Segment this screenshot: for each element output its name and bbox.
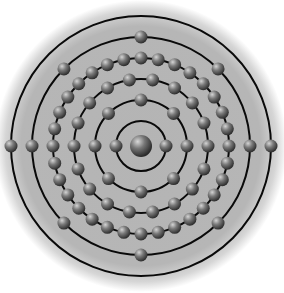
electron xyxy=(101,198,114,211)
atom-svg xyxy=(0,0,284,293)
electron xyxy=(47,140,60,153)
electron xyxy=(221,157,234,170)
electron xyxy=(212,62,225,75)
electron xyxy=(197,162,210,175)
electron xyxy=(117,53,130,66)
electron xyxy=(135,31,148,44)
electron xyxy=(110,140,123,153)
electron xyxy=(186,96,199,109)
electron xyxy=(146,205,159,218)
electron xyxy=(146,74,159,87)
electron xyxy=(197,77,210,90)
electron xyxy=(183,66,196,79)
electron xyxy=(117,226,130,239)
electron xyxy=(101,221,114,234)
electron xyxy=(102,107,115,120)
electron xyxy=(89,140,102,153)
nucleus xyxy=(130,135,152,157)
electron xyxy=(135,228,148,241)
electron xyxy=(197,117,210,130)
electron xyxy=(68,140,81,153)
electron xyxy=(221,122,234,135)
electron xyxy=(57,217,70,230)
electron xyxy=(265,140,278,153)
electron xyxy=(152,226,165,239)
electron xyxy=(168,58,181,71)
electron xyxy=(168,198,181,211)
electron xyxy=(53,173,66,186)
electron xyxy=(216,106,229,119)
electron xyxy=(72,117,85,130)
electron xyxy=(160,140,173,153)
electron xyxy=(72,162,85,175)
electron xyxy=(57,62,70,75)
electron xyxy=(135,94,148,107)
electron xyxy=(61,188,74,201)
electron xyxy=(101,58,114,71)
electron xyxy=(83,183,96,196)
electron xyxy=(168,81,181,94)
electron xyxy=(48,157,61,170)
electron xyxy=(244,140,257,153)
electron xyxy=(61,91,74,104)
electron xyxy=(202,140,215,153)
electron xyxy=(135,249,148,262)
electron xyxy=(123,205,136,218)
electron xyxy=(83,96,96,109)
electron xyxy=(48,122,61,135)
electron xyxy=(102,172,115,185)
electron xyxy=(53,106,66,119)
atom-diagram xyxy=(0,0,284,293)
electron xyxy=(167,172,180,185)
electron xyxy=(183,213,196,226)
electron xyxy=(216,173,229,186)
electron xyxy=(86,213,99,226)
electron xyxy=(135,52,148,65)
electron xyxy=(197,202,210,215)
electron xyxy=(223,140,236,153)
electron xyxy=(167,107,180,120)
electron xyxy=(181,140,194,153)
electron xyxy=(72,77,85,90)
electron xyxy=(168,221,181,234)
electron xyxy=(123,74,136,87)
electron xyxy=(72,202,85,215)
electron xyxy=(152,53,165,66)
electron xyxy=(212,217,225,230)
electron xyxy=(101,81,114,94)
electron xyxy=(5,140,18,153)
electron xyxy=(26,140,39,153)
electron xyxy=(135,186,148,199)
electron xyxy=(186,183,199,196)
electron xyxy=(208,91,221,104)
electron xyxy=(208,188,221,201)
electron xyxy=(86,66,99,79)
